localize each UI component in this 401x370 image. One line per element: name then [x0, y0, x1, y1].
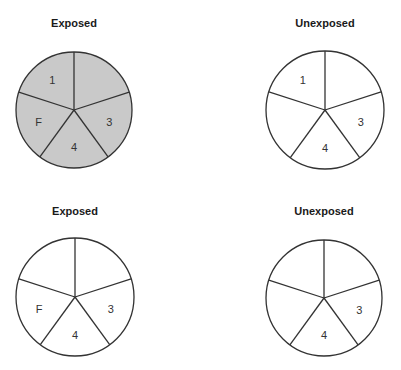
- segment-label-left: F: [35, 116, 42, 128]
- pie-exposed-top: 34F1: [16, 52, 132, 168]
- segment-label-right: 3: [108, 303, 114, 315]
- segment-label-upper-left: 1: [300, 74, 306, 86]
- pie-unexposed-top: 341: [266, 51, 384, 169]
- segment-label-left: F: [36, 303, 43, 315]
- pie-unexposed-bottom: 34: [266, 240, 382, 356]
- pie-diagrams: 34F134134F34: [0, 0, 401, 370]
- segment-label-bottom: 4: [72, 329, 78, 341]
- segment-label-bottom: 4: [321, 329, 327, 341]
- segment-label-right: 3: [106, 116, 112, 128]
- segment-label-right: 3: [356, 304, 362, 316]
- segment-label-right: 3: [358, 116, 364, 128]
- segment-label-bottom: 4: [71, 141, 77, 153]
- segment-label-bottom: 4: [322, 142, 328, 154]
- pie-exposed-bottom: 34F: [16, 238, 134, 356]
- segment-label-upper-left: 1: [49, 74, 55, 86]
